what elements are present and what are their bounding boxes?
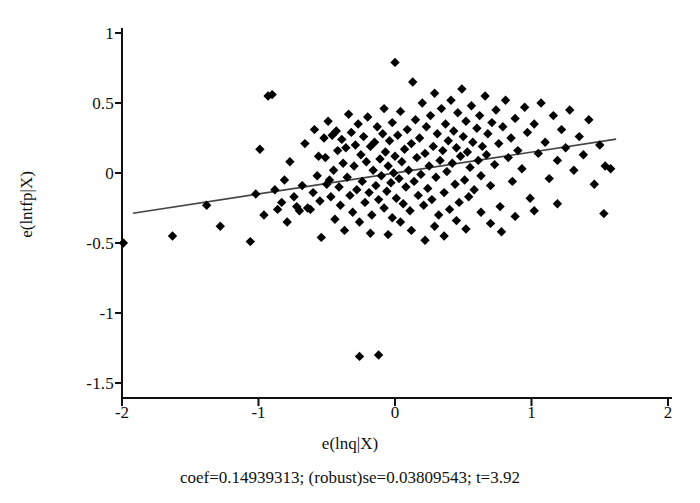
x-tick-label: -1 — [229, 404, 289, 421]
scatter-points — [119, 58, 616, 361]
y-tick-label: 1 — [68, 25, 114, 42]
y-tick-label: 0.5 — [68, 95, 114, 112]
x-tick-label: -2 — [92, 404, 152, 421]
y-axis-title: e(lntfp|X) — [18, 135, 35, 275]
x-tick-label: 0 — [365, 404, 425, 421]
y-tick-label: -1 — [68, 305, 114, 322]
y-tick-label: -0.5 — [68, 235, 114, 252]
added-variable-plot-figure: 10.50-0.5-1-1.5 -2-1012 e(lntfp|X) e(lnq… — [0, 0, 700, 503]
figure-caption: coef=0.14939313; (robust)se=0.03809543; … — [0, 468, 700, 488]
y-tick-label: -1.5 — [68, 375, 114, 392]
y-tick-label: 0 — [68, 165, 114, 182]
x-axis-title: e(lnq|X) — [0, 434, 700, 453]
x-tick-label: 2 — [638, 404, 698, 421]
x-tick-label: 1 — [502, 404, 562, 421]
axis-lines — [121, 28, 672, 398]
